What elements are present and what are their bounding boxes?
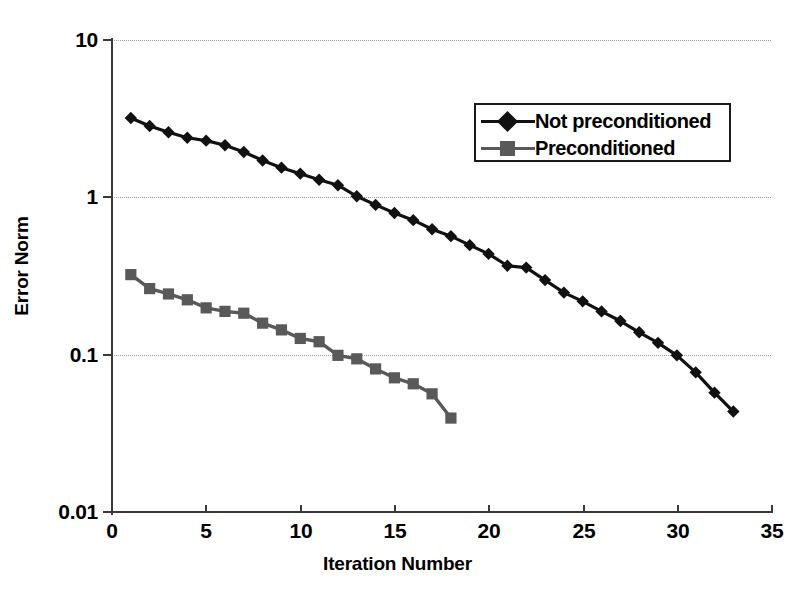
x-tick-0 (111, 505, 113, 513)
diamond-marker-icon (294, 167, 306, 179)
square-marker-icon (370, 363, 381, 374)
diamond-marker-icon (633, 326, 645, 338)
y-ticklabel-1: 1 (87, 185, 98, 209)
diamond-marker-icon (539, 274, 551, 286)
y-ticklabel-0.01: 0.01 (58, 500, 98, 524)
square-marker-icon (219, 306, 230, 317)
diamond-marker-icon (482, 248, 494, 260)
diamond-marker-icon (143, 120, 155, 132)
diamond-marker-icon (181, 132, 193, 144)
legend-label-not-preconditioned: Not preconditioned (535, 111, 711, 131)
y-axis-title: Error Norm (11, 186, 33, 346)
x-tick-20 (488, 505, 490, 513)
square-marker-icon (163, 288, 174, 299)
diamond-marker-icon (689, 366, 701, 378)
square-marker-icon (500, 141, 515, 156)
square-marker-icon (445, 412, 456, 423)
diamond-marker-icon (426, 223, 438, 235)
diamond-marker-icon (219, 139, 231, 151)
x-tick-10 (300, 505, 302, 513)
x-ticklabel-0: 0 (106, 519, 117, 543)
square-marker-icon (238, 308, 249, 319)
diamond-marker-icon (407, 214, 419, 226)
data-series-layer (0, 0, 795, 598)
series-line (131, 275, 451, 418)
diamond-marker-icon (369, 199, 381, 211)
x-ticklabel-20: 20 (478, 519, 501, 543)
diamond-marker-icon (614, 315, 626, 327)
diamond-marker-icon (238, 146, 250, 158)
y-ticklabel-0.1: 0.1 (70, 343, 98, 367)
diamond-marker-icon (200, 134, 212, 146)
diamond-marker-icon (727, 405, 739, 417)
diamond-marker-icon (332, 179, 344, 191)
x-tick-25 (583, 505, 585, 513)
gridline-1 (112, 197, 771, 199)
square-marker-icon (144, 283, 155, 294)
x-tick-35 (771, 505, 773, 513)
y-axis-line (111, 38, 113, 515)
x-ticklabel-5: 5 (200, 519, 211, 543)
diamond-marker-icon (445, 230, 457, 242)
diamond-marker-icon (162, 126, 174, 138)
x-ticklabel-30: 30 (667, 519, 690, 543)
square-marker-icon (257, 318, 268, 329)
y-ticklabel-10: 10 (75, 28, 98, 52)
x-tick-30 (677, 505, 679, 513)
diamond-marker-icon (275, 161, 287, 173)
diamond-marker-icon (256, 154, 268, 166)
x-axis-title: Iteration Number (0, 553, 795, 575)
series-line (131, 118, 734, 412)
legend-label-preconditioned: Preconditioned (535, 138, 675, 158)
x-tick-5 (205, 505, 207, 513)
square-marker-icon (314, 336, 325, 347)
x-axis-line (111, 511, 772, 513)
legend-sample-square (481, 139, 535, 157)
diamond-marker-icon (313, 174, 325, 186)
diamond-marker-icon (388, 207, 400, 219)
square-marker-icon (276, 324, 287, 335)
diamond-marker-icon (577, 295, 589, 307)
square-marker-icon (408, 378, 419, 389)
square-marker-icon (201, 302, 212, 313)
diamond-marker-icon (708, 386, 720, 398)
legend-item-not-preconditioned[interactable]: Not preconditioned (476, 107, 729, 134)
legend-item-preconditioned[interactable]: Preconditioned (476, 134, 729, 161)
diamond-marker-icon (464, 239, 476, 251)
x-tick-15 (394, 505, 396, 513)
square-marker-icon (389, 372, 400, 383)
x-ticklabel-35: 35 (761, 519, 784, 543)
square-marker-icon (182, 294, 193, 305)
diamond-marker-icon (520, 261, 532, 273)
diamond-marker-icon (501, 260, 513, 272)
gridline-10 (112, 40, 771, 42)
x-ticklabel-25: 25 (573, 519, 596, 543)
gridline-0.1 (112, 355, 771, 357)
diamond-marker-icon (497, 110, 518, 131)
x-ticklabel-15: 15 (384, 519, 407, 543)
legend: Not preconditioned Preconditioned (474, 103, 731, 162)
diamond-marker-icon (652, 337, 664, 349)
diamond-marker-icon (595, 305, 607, 317)
error-norm-convergence-chart: 10 1 0.1 0.01 0 5 10 15 20 25 30 35 Iter… (0, 0, 795, 598)
x-ticklabel-10: 10 (290, 519, 313, 543)
diamond-marker-icon (558, 286, 570, 298)
square-marker-icon (426, 388, 437, 399)
square-marker-icon (125, 269, 136, 280)
square-marker-icon (295, 333, 306, 344)
series-preconditioned (125, 269, 456, 424)
legend-sample-diamond (481, 112, 535, 130)
diamond-marker-icon (125, 112, 137, 124)
